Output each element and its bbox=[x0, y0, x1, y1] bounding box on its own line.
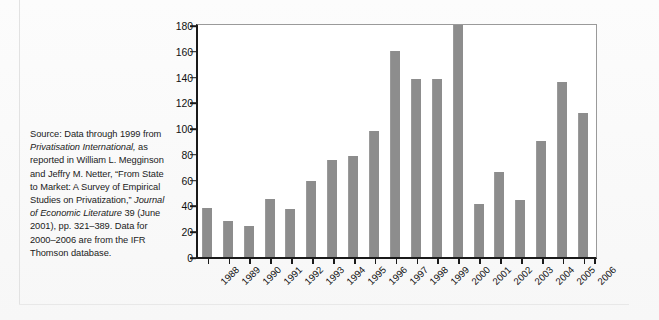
x-axis-tick-label: 1990 bbox=[260, 264, 283, 287]
x-axis-tick-label: 2003 bbox=[532, 264, 555, 287]
y-axis-tick-mark bbox=[190, 103, 196, 105]
y-axis-tick-mark bbox=[190, 206, 196, 208]
y-axis-tick-mark bbox=[190, 154, 196, 156]
y-axis-tick-label: 180 bbox=[159, 21, 193, 32]
x-axis-tick-label: 1988 bbox=[219, 264, 242, 287]
bar-slot bbox=[428, 25, 449, 257]
y-axis-tick-label: 140 bbox=[159, 72, 193, 83]
bar bbox=[244, 226, 254, 257]
bar-slot bbox=[574, 25, 595, 257]
bar-slot bbox=[240, 25, 261, 257]
bar-series bbox=[198, 25, 595, 257]
y-axis-tick-label: 80 bbox=[159, 149, 193, 160]
bar bbox=[536, 141, 546, 257]
bar-slot bbox=[407, 25, 428, 257]
bar-slot bbox=[365, 25, 386, 257]
bar-slot bbox=[532, 25, 553, 257]
bar bbox=[306, 181, 316, 257]
source-note: Source: Data through 1999 from Privatisa… bbox=[30, 128, 170, 260]
bar bbox=[202, 208, 212, 257]
bar bbox=[474, 204, 484, 257]
bar-slot bbox=[491, 25, 512, 257]
y-axis-tick-label: 20 bbox=[159, 227, 193, 238]
y-axis-tick-mark bbox=[190, 25, 196, 27]
y-axis-tick-mark bbox=[190, 257, 196, 259]
bar-slot bbox=[302, 25, 323, 257]
bar-slot bbox=[323, 25, 344, 257]
x-axis-tick-label: 1996 bbox=[386, 264, 409, 287]
y-axis-tick-label: 100 bbox=[159, 124, 193, 135]
panel-left-rule bbox=[19, 0, 20, 305]
x-axis-tick-label: 1995 bbox=[365, 264, 388, 287]
y-axis-tick-label: 60 bbox=[159, 175, 193, 186]
bar-slot bbox=[470, 25, 491, 257]
bar-slot bbox=[553, 25, 574, 257]
x-axis-tick-label: 1999 bbox=[449, 264, 472, 287]
bar-slot bbox=[386, 25, 407, 257]
x-axis-tick-label: 1993 bbox=[323, 264, 346, 287]
y-axis-tick-label: 0 bbox=[159, 253, 193, 264]
bar bbox=[390, 51, 400, 257]
bar-slot bbox=[511, 25, 532, 257]
x-axis-tick-label: 2004 bbox=[553, 264, 576, 287]
bar-slot bbox=[282, 25, 303, 257]
bar bbox=[411, 79, 421, 257]
bar bbox=[432, 79, 442, 257]
chart-page: Source: Data through 1999 from Privatisa… bbox=[0, 0, 659, 320]
bar-slot bbox=[449, 25, 470, 257]
bar-slot bbox=[198, 25, 219, 257]
x-axis-tick-label: 2001 bbox=[490, 264, 513, 287]
bar-slot bbox=[219, 25, 240, 257]
bar bbox=[494, 172, 504, 257]
bar bbox=[515, 200, 525, 257]
bar bbox=[285, 209, 295, 257]
y-axis-tick-mark bbox=[190, 51, 196, 53]
y-axis-tick-label: 40 bbox=[159, 201, 193, 212]
bar-slot bbox=[344, 25, 365, 257]
y-axis-tick-label: 160 bbox=[159, 46, 193, 57]
x-axis-tick-label: 2005 bbox=[574, 264, 597, 287]
y-axis-tick-mark bbox=[190, 180, 196, 182]
source-note-segment-1: Privatisation International, bbox=[30, 142, 136, 152]
x-axis-tick-label: 1997 bbox=[407, 264, 430, 287]
bar bbox=[369, 131, 379, 257]
source-note-segment-0: Source: Data through 1999 from bbox=[30, 129, 161, 139]
bar bbox=[265, 199, 275, 257]
y-axis-tick-label: 120 bbox=[159, 98, 193, 109]
x-axis-tick-label: 1991 bbox=[281, 264, 304, 287]
x-axis-tick-label: 1992 bbox=[302, 264, 325, 287]
bar bbox=[578, 113, 588, 257]
y-axis-tick-mark bbox=[190, 128, 196, 130]
x-axis-tick-label: 2000 bbox=[469, 264, 492, 287]
bar-chart: 1988198919901991199219931994199519961997… bbox=[196, 24, 597, 259]
x-axis-labels: 1988198919901991199219931994199519961997… bbox=[198, 264, 595, 320]
bar-slot bbox=[261, 25, 282, 257]
bar bbox=[557, 82, 567, 257]
x-axis-tick-label: 2002 bbox=[511, 264, 534, 287]
y-axis-tick-mark bbox=[190, 77, 196, 79]
bar bbox=[223, 221, 233, 257]
bar bbox=[327, 160, 337, 257]
bar bbox=[453, 25, 463, 257]
y-axis-tick-mark bbox=[190, 231, 196, 233]
x-axis-tick-label: 1994 bbox=[344, 264, 367, 287]
bar bbox=[348, 156, 358, 257]
x-axis-tick-label: 1989 bbox=[240, 264, 263, 287]
x-axis-tick-label: 1998 bbox=[428, 264, 451, 287]
